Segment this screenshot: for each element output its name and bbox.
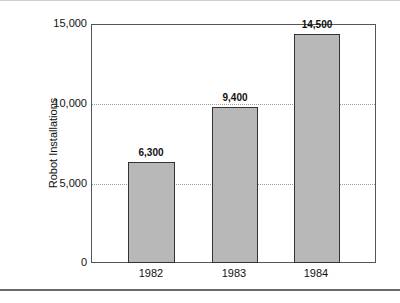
data-label-1984: 14,500 <box>287 19 347 30</box>
plot-area: 6,300 9,400 14,500 <box>91 24 376 263</box>
x-tick-1984: 1984 <box>291 267 341 279</box>
bar-1983 <box>212 107 258 263</box>
x-tick-1982: 1982 <box>126 267 176 279</box>
bottom-rule <box>0 289 400 291</box>
bar-1982 <box>128 162 175 263</box>
y-tick-15000: 15,000 <box>27 17 87 29</box>
x-tick-1983: 1983 <box>209 267 259 279</box>
y-tick-0: 0 <box>27 256 87 268</box>
data-label-1982: 6,300 <box>121 147 181 158</box>
data-label-1983: 9,400 <box>205 92 265 103</box>
bar-1984 <box>294 34 340 263</box>
y-tick-5000: 5,000 <box>27 177 87 189</box>
top-rule <box>0 0 400 1</box>
y-tick-10000: 10,000 <box>27 97 87 109</box>
